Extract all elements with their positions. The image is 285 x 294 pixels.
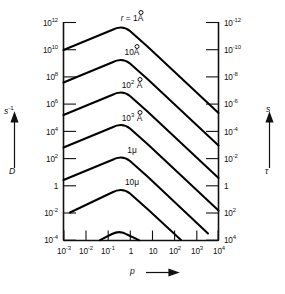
- y-right-tick-label: 102: [224, 207, 236, 218]
- y-left-axis-title: D: [9, 166, 15, 176]
- curve-label-r-1e3-angstrom: 103 A: [92, 112, 172, 123]
- y-left-tick-label: 104: [14, 126, 58, 137]
- y-left-tick-label: 1: [14, 180, 58, 191]
- figure-log-log-plot: 1012 1010 108 106 104 102 1 10-2 10-4 10…: [0, 0, 285, 294]
- data-curves: [64, 27, 219, 240]
- y-right-tick-label: 104: [224, 234, 236, 245]
- y-left-tick-label: 102: [14, 153, 58, 164]
- y-right-units-label: s: [266, 104, 270, 114]
- x-axis-title: p: [130, 266, 135, 276]
- x-tick-label: 104: [205, 245, 233, 256]
- y-right-tick-label: 10-4: [224, 126, 238, 137]
- y-right-tick-label: 10-8: [224, 71, 238, 82]
- y-left-tick-label: 10-4: [14, 234, 58, 245]
- curve-r-1e2-angstrom: [64, 92, 219, 178]
- x-axis-arrow-icon: [146, 269, 178, 275]
- curve-r-10-angstrom: [64, 60, 219, 146]
- curve-label-r-10-micron: 10μ: [92, 177, 172, 187]
- curve-r-1-angstrom: [64, 27, 219, 113]
- y-right-tick-label: 1: [224, 180, 228, 191]
- curve-label-r-1-angstrom: r = 1A: [92, 13, 172, 23]
- curve-r-1-micron: [64, 157, 209, 233]
- left-axis-ticks: [64, 23, 77, 241]
- curve-label-r-1-micron: 1μ: [92, 145, 172, 155]
- y-right-tick-label: 10-6: [224, 98, 238, 109]
- y-left-units-label: s-1: [4, 104, 14, 116]
- curve-label-r-1e2-angstrom: 102 A: [92, 79, 172, 90]
- curve-r-1e3-angstrom: [64, 125, 219, 211]
- y-left-tick-label: 106: [14, 98, 58, 109]
- y-right-tick-label: 10-10: [224, 44, 241, 55]
- y-right-tick-label: 10-2: [224, 153, 238, 164]
- x-axis-ticks: [64, 231, 218, 241]
- curve-lowest-unlabeled: [100, 232, 139, 240]
- curve-r-10-micron: [70, 190, 181, 240]
- curve-label-r-10-angstrom: 10A: [92, 47, 172, 57]
- y-left-tick-label: 1010: [14, 44, 58, 55]
- y-right-axis-title: τ: [265, 166, 268, 176]
- y-left-tick-label: 10-2: [14, 207, 58, 218]
- y-left-tick-label: 108: [14, 71, 58, 82]
- y-left-tick-label: 1012: [14, 17, 58, 28]
- right-axis-arrow-icon: [266, 113, 272, 168]
- y-right-tick-label: 10-12: [224, 17, 241, 28]
